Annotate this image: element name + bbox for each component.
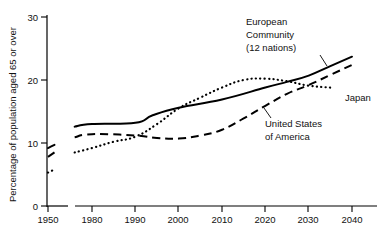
annotation-european-community-line2: Community <box>246 29 294 40</box>
annotation-united-states-line1: United States <box>265 118 322 129</box>
series-stub-japan <box>48 169 56 173</box>
annotation-japan-label: Japan <box>345 92 371 103</box>
line-chart: 30 20 10 0 Percentage of population aged… <box>0 0 391 241</box>
annotation-leader-european-community <box>320 55 327 66</box>
x-tick-label-2040: 2040 <box>341 214 362 225</box>
annotation-united-states-line2: of America <box>265 131 311 142</box>
x-tick-label-2020: 2020 <box>254 214 275 225</box>
y-axis-title: Percentage of population aged 65 or over <box>7 27 18 202</box>
x-tick-label-1950: 1950 <box>37 214 58 225</box>
y-tick-label-30: 30 <box>27 12 38 23</box>
x-tick-label-1980: 1980 <box>81 214 102 225</box>
series-stub-european-community <box>48 145 55 148</box>
annotation-leader-united-states <box>264 108 271 118</box>
annotation-european-community-line1: European <box>246 16 287 27</box>
x-tick-label-1990: 1990 <box>124 214 145 225</box>
chart-container: 30 20 10 0 Percentage of population aged… <box>0 0 391 241</box>
x-tick-label-2030: 2030 <box>297 214 318 225</box>
y-tick-label-0: 0 <box>33 201 38 212</box>
y-tick-label-20: 20 <box>27 75 38 86</box>
x-tick-label-2000: 2000 <box>167 214 188 225</box>
y-tick-label-10: 10 <box>27 138 38 149</box>
x-tick-label-2010: 2010 <box>211 214 232 225</box>
series-stub-united-states <box>48 152 55 156</box>
annotation-european-community-line3: (12 nations) <box>246 42 296 53</box>
